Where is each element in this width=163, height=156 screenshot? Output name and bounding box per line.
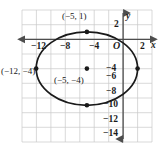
point-center [85, 66, 90, 71]
y-tick-label-neg14: −14 [103, 129, 118, 139]
y-tick-label-neg12: −12 [103, 115, 118, 125]
y-tick-label-neg8: −8 [106, 87, 116, 97]
x-tick-label-neg4: −4 [89, 42, 99, 52]
origin-label: O [113, 41, 120, 51]
y-axis-name-label: y [126, 12, 130, 22]
x-tick-label-neg12: −12 [31, 42, 46, 52]
x-tick-label-2: 2 [140, 42, 145, 52]
y-tick-label-2: 2 [114, 20, 119, 30]
point-label-top-covertex: (−5, 1) [62, 12, 87, 21]
x-axis-name-label: x [151, 41, 156, 51]
y-tick-label-neg10: −10 [103, 100, 118, 110]
point-bottom-covertex [85, 103, 90, 108]
y-tick-label-neg6: −6 [106, 72, 116, 82]
point-right-vertex [135, 66, 140, 71]
point-top-covertex [85, 30, 90, 35]
point-label-left-vertex: (−12, −4) [1, 67, 35, 76]
x-tick-label-neg8: −8 [60, 42, 70, 52]
ellipse-graph-figure: −12 −8 −4 2 2 −4 −6 −8 −10 −12 −14 O x y… [0, 0, 163, 156]
point-label-center: (−5, −4) [54, 76, 84, 85]
